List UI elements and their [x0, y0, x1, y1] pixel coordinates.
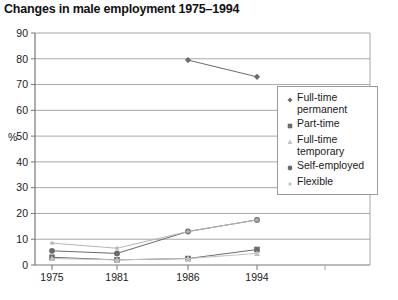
circle-marker-icon	[288, 166, 293, 171]
data-series	[49, 217, 260, 256]
legend-item[interactable]: Part-time	[283, 118, 373, 131]
x-axis-tick-label: 1994	[245, 271, 269, 283]
y-axis-title: %	[8, 131, 17, 143]
diamond-marker-icon	[254, 74, 260, 80]
legend-item[interactable]: Full-time temporary	[283, 134, 373, 157]
circle-marker-icon	[114, 251, 120, 257]
star-marker-icon	[288, 182, 292, 186]
triangle-marker-icon	[288, 140, 293, 145]
data-series	[49, 247, 260, 263]
x-axis-tick-label: 1981	[105, 271, 129, 283]
series-line	[52, 253, 257, 259]
y-axis-tick-label: 20	[16, 207, 28, 219]
star-marker-icon	[115, 246, 120, 251]
triangle-marker-icon	[283, 134, 297, 147]
diamond-marker-icon	[185, 57, 191, 63]
series-line	[52, 220, 257, 248]
y-axis-tick-label: 0	[22, 259, 28, 271]
y-axis-tick-label: 90	[16, 27, 28, 39]
y-axis-tick-label: 60	[16, 104, 28, 116]
legend-item-label: Part-time	[297, 118, 340, 130]
y-axis-tick-label: 70	[16, 78, 28, 90]
circle-marker-icon	[283, 160, 297, 173]
legend-item[interactable]: Flexible	[283, 176, 373, 189]
legend-item-label: Full-time permanent	[297, 92, 347, 115]
series-line	[188, 60, 257, 77]
y-axis-tick-label: 80	[16, 53, 28, 65]
y-axis-tick-label: 50	[16, 130, 28, 142]
legend-item-label: Flexible	[297, 176, 333, 188]
circle-marker-icon	[49, 248, 55, 254]
data-series	[50, 217, 260, 250]
x-axis-tick-label: 1986	[176, 271, 200, 283]
data-series	[185, 57, 260, 80]
square-marker-icon	[288, 124, 293, 129]
star-marker-icon	[50, 241, 55, 246]
diamond-marker-icon	[283, 92, 297, 105]
chart-legend: Full-time permanentPart-timeFull-time te…	[277, 86, 378, 195]
legend-item[interactable]: Full-time permanent	[283, 92, 373, 115]
legend-item[interactable]: Self-employed	[283, 160, 373, 173]
y-axis-tick-label: 40	[16, 156, 28, 168]
diamond-marker-icon	[287, 97, 292, 102]
y-axis-tick-label: 10	[16, 233, 28, 245]
x-axis-tick-label: 1975	[40, 271, 64, 283]
square-marker-icon	[283, 118, 297, 131]
legend-item-label: Full-time temporary	[297, 134, 344, 157]
series-line	[52, 250, 257, 260]
legend-item-label: Self-employed	[297, 160, 364, 172]
y-axis-tick-label: 30	[16, 181, 28, 193]
star-marker-icon	[283, 176, 297, 189]
